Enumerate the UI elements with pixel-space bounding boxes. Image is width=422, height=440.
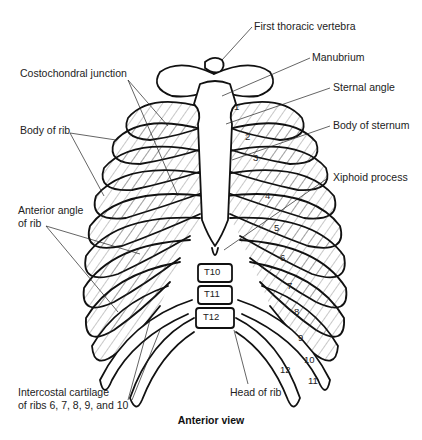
rib-number-8: 8 xyxy=(294,306,299,317)
vertebra-t11: T11 xyxy=(204,288,220,299)
label-intercostal-line2: of ribs 6, 7, 8, 9, and 10 xyxy=(18,399,128,411)
label-body-of-rib: Body of rib xyxy=(20,124,70,136)
vertebra-t12: T12 xyxy=(203,311,219,322)
label-first-thoracic-vertebra: First thoracic vertebra xyxy=(254,20,356,32)
rib-number-6: 6 xyxy=(280,252,285,263)
label-anterior-angle-line2: of rib xyxy=(18,217,41,229)
label-body-of-sternum: Body of sternum xyxy=(333,119,409,131)
rib-number-2: 2 xyxy=(245,131,250,142)
rib-number-12: 12 xyxy=(280,364,291,375)
label-xiphoid-process: Xiphoid process xyxy=(333,171,408,183)
rib-number-4: 4 xyxy=(265,190,270,201)
figure-caption: Anterior view xyxy=(0,414,422,426)
label-head-of-rib: Head of rib xyxy=(230,386,281,398)
rib-number-3: 3 xyxy=(253,152,258,163)
rib-number-9: 9 xyxy=(298,332,303,343)
rib-number-7: 7 xyxy=(287,280,292,291)
rib-number-1: 1 xyxy=(234,101,239,112)
rib-number-11: 11 xyxy=(308,375,318,386)
rib-number-10: 10 xyxy=(304,354,315,365)
vertebra-t10: T10 xyxy=(204,266,220,277)
rib-number-5: 5 xyxy=(274,222,279,233)
label-intercostal-line1: Intercostal cartilage xyxy=(18,386,109,398)
label-manubrium: Manubrium xyxy=(312,51,365,63)
rib-cage-drawing xyxy=(0,0,422,440)
rib-cage-figure: First thoracic vertebra Manubrium Sterna… xyxy=(0,0,422,440)
label-sternal-angle: Sternal angle xyxy=(333,81,395,93)
label-costochondral-junction: Costochondral junction xyxy=(20,67,127,79)
label-anterior-angle-line1: Anterior angle xyxy=(18,204,83,216)
